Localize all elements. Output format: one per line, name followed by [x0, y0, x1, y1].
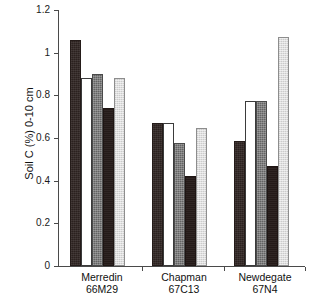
x-tick-mark-1	[142, 267, 143, 271]
x-group-label-newdegate-line2: 67N4	[220, 284, 310, 296]
bar-merredin-series2	[81, 78, 92, 266]
y-tick-label-1: 0.2	[20, 218, 50, 228]
bar-chapman-series4	[185, 176, 196, 266]
x-group-label-newdegate-line1: Newdegate	[238, 271, 291, 283]
x-group-label-merredin-line2: 66M29	[57, 284, 147, 296]
y-tick-label-6: 1.2	[20, 5, 50, 15]
y-tick-label-2: 0.4	[20, 176, 50, 186]
y-tick-label-5: 1	[20, 48, 50, 58]
bar-merredin-series3	[92, 74, 103, 266]
y-tick-label-0: 0	[20, 261, 50, 271]
bar-newdegate-series4	[267, 166, 278, 266]
x-tick-mark-2	[224, 267, 225, 271]
x-group-label-chapman-line2: 67C13	[139, 284, 229, 296]
x-group-label-newdegate: Newdegate 67N4	[220, 272, 310, 295]
x-group-label-chapman: Chapman 67C13	[139, 272, 229, 295]
x-tick-mark-3	[305, 267, 306, 271]
y-tick-label-3: 0.6	[20, 133, 50, 143]
x-group-label-chapman-line1: Chapman	[161, 271, 207, 283]
x-group-label-merredin-line1: Merredin	[81, 271, 122, 283]
bar-chart: Soil C (%) 0-10 cm 0 0.2 0.4 0.6 0.8 1 1…	[0, 0, 318, 298]
x-axis-line	[58, 266, 305, 267]
y-tick-label-4: 0.8	[20, 90, 50, 100]
bar-newdegate-series3	[256, 101, 267, 266]
bar-merredin-series4	[103, 108, 114, 266]
bar-merredin-series5	[114, 78, 125, 266]
y-axis-line	[58, 10, 59, 267]
bar-chapman-series5	[196, 128, 207, 266]
bar-newdegate-series5	[278, 37, 289, 266]
bar-newdegate-series1	[234, 141, 245, 266]
bar-chapman-series3	[174, 143, 185, 266]
bar-merredin-series1	[70, 40, 81, 266]
bar-newdegate-series2	[245, 101, 256, 266]
bar-chapman-series1	[152, 123, 163, 266]
bar-chapman-series2	[163, 123, 174, 266]
x-group-label-merredin: Merredin 66M29	[57, 272, 147, 295]
